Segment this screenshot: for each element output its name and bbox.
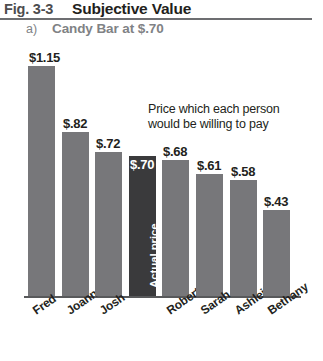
bar-josh: [95, 152, 122, 296]
bar-bethany: [263, 210, 290, 296]
bar-chart-plot: $1.15Fred$.82Joanna$.72Josh$.70Actual pr…: [0, 0, 323, 361]
bar-value-label: $.43: [264, 194, 288, 209]
bar-joanna: [62, 132, 89, 296]
bar-ashleigh: [230, 180, 257, 296]
annotation-line-2: would be willing to pay: [148, 117, 314, 132]
bar-value-label: $.82: [63, 116, 87, 131]
bar-sarah: [196, 174, 223, 296]
annotation-line-1: Price which each person: [148, 102, 314, 117]
bar-value-label: $.68: [163, 144, 187, 159]
bar-fred: [28, 66, 55, 296]
actual-price-label: Actual price: [148, 223, 160, 288]
annotation-callout: Price which each person would be willing…: [148, 102, 314, 132]
bar-value-label: $.58: [231, 164, 255, 179]
bar-value-label: $1.15: [29, 50, 60, 65]
bar-value-label: $.72: [96, 136, 120, 151]
bar-value-label: $.70: [130, 157, 154, 172]
bar-value-label: $.61: [197, 158, 221, 173]
bar-robert: [162, 160, 189, 296]
figure-subjective-value: Fig. 3-3 Subjective Value a) Candy Bar a…: [0, 0, 323, 361]
